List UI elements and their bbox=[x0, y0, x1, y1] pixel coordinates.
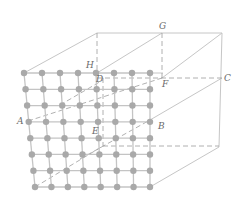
lattice-point bbox=[130, 135, 136, 141]
lattice-point bbox=[76, 86, 82, 92]
lattice-point bbox=[147, 135, 153, 141]
lattice-point bbox=[147, 184, 153, 190]
lattice-point bbox=[29, 151, 35, 157]
lattice-point bbox=[64, 168, 70, 174]
point-lattice bbox=[21, 70, 153, 190]
lattice-point bbox=[48, 184, 54, 190]
lattice-point bbox=[77, 119, 83, 125]
lattice-point bbox=[59, 102, 65, 108]
lattice-point bbox=[80, 168, 86, 174]
lattice-point bbox=[57, 70, 63, 76]
lattice-point bbox=[75, 70, 81, 76]
label-f: F bbox=[162, 80, 168, 89]
lattice-point bbox=[27, 135, 33, 141]
lattice-point bbox=[111, 86, 117, 92]
lattice-point bbox=[98, 184, 104, 190]
lattice-point bbox=[129, 102, 135, 108]
lattice-point bbox=[129, 86, 135, 92]
label-d: D bbox=[96, 75, 103, 84]
lattice-point bbox=[22, 86, 28, 92]
lattice-point bbox=[32, 184, 38, 190]
lattice-point bbox=[41, 102, 47, 108]
lattice-point bbox=[65, 184, 71, 190]
lattice-point bbox=[30, 168, 36, 174]
label-h: H bbox=[86, 61, 94, 70]
lattice-point bbox=[21, 70, 27, 76]
lattice-point bbox=[46, 151, 52, 157]
lattice-point bbox=[147, 102, 153, 108]
lattice-point bbox=[147, 86, 153, 92]
lattice-point bbox=[39, 70, 45, 76]
lattice-point bbox=[24, 102, 30, 108]
lattice-point bbox=[93, 86, 99, 92]
lattice-point bbox=[79, 151, 85, 157]
lattice-point bbox=[47, 168, 53, 174]
lattice-point bbox=[129, 119, 135, 125]
lattice-point bbox=[147, 151, 153, 157]
lattice-point bbox=[112, 102, 118, 108]
diagram-canvas bbox=[0, 0, 240, 212]
lattice-point bbox=[77, 102, 83, 108]
lattice-point bbox=[113, 151, 119, 157]
lattice-point bbox=[130, 151, 136, 157]
lattice-point bbox=[114, 184, 120, 190]
lattice-point bbox=[112, 119, 118, 125]
lattice-point bbox=[147, 119, 153, 125]
lattice-point bbox=[113, 135, 119, 141]
box-solid-edges bbox=[24, 33, 222, 187]
lattice-point bbox=[40, 86, 46, 92]
lattice-point bbox=[147, 70, 153, 76]
lattice-point bbox=[94, 102, 100, 108]
lattice-point bbox=[130, 168, 136, 174]
label-a: A bbox=[17, 117, 24, 126]
lattice-point bbox=[43, 119, 49, 125]
lattice-point bbox=[97, 168, 103, 174]
lattice-point bbox=[111, 70, 117, 76]
lattice-point bbox=[44, 135, 50, 141]
lattice-point bbox=[147, 168, 153, 174]
lattice-point bbox=[96, 151, 102, 157]
label-g: G bbox=[159, 22, 166, 31]
lattice-point bbox=[60, 119, 66, 125]
lattice-point bbox=[130, 184, 136, 190]
lattice-point bbox=[81, 184, 87, 190]
lattice-point bbox=[113, 168, 119, 174]
lattice-box-diagram: A B C D E F G H bbox=[0, 0, 240, 212]
label-e: E bbox=[92, 127, 99, 136]
lattice-point bbox=[58, 86, 64, 92]
label-c: C bbox=[224, 74, 231, 83]
lattice-point bbox=[78, 135, 84, 141]
lattice-point bbox=[95, 119, 101, 125]
label-b: B bbox=[158, 122, 165, 131]
lattice-point bbox=[129, 70, 135, 76]
lattice-point bbox=[26, 119, 32, 125]
lattice-point bbox=[62, 151, 68, 157]
lattice-point bbox=[61, 135, 67, 141]
